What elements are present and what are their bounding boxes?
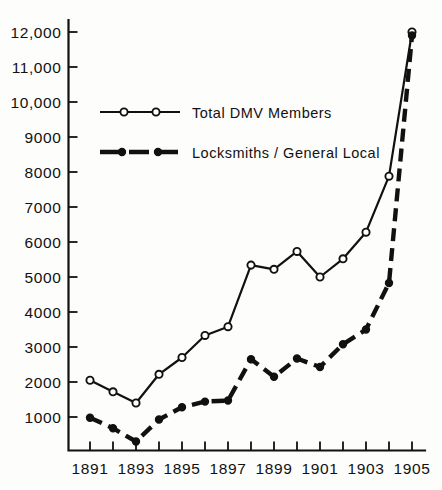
- y-tick-label: 5000: [25, 269, 62, 286]
- data-point-filled-circle: [248, 356, 255, 363]
- legend-marker-open-circle: [152, 108, 159, 115]
- data-point-filled-circle: [340, 341, 347, 348]
- y-tick-label: 1000: [25, 409, 62, 426]
- data-point-filled-circle: [133, 438, 140, 445]
- y-tick-label: 10,000: [10, 94, 61, 111]
- data-point-filled-circle: [202, 398, 209, 405]
- data-point-filled-circle: [156, 416, 163, 423]
- series-locksmiths-general-local: [87, 32, 416, 445]
- data-point-open-circle: [247, 262, 254, 269]
- data-point-filled-circle: [87, 414, 94, 421]
- y-tick-label: 3000: [25, 339, 62, 356]
- y-tick-label: 8000: [25, 164, 62, 181]
- data-point-open-circle: [201, 332, 208, 339]
- data-point-filled-circle: [294, 355, 301, 362]
- legend-label-locksmiths-general-local: Locksmiths / General Local: [192, 145, 380, 161]
- chart-container: 10002000300040005000600070008000900010,0…: [0, 0, 442, 490]
- x-tick-label: 1895: [164, 460, 201, 477]
- y-axis-tick-labels: 10002000300040005000600070008000900010,0…: [10, 24, 61, 426]
- data-point-open-circle: [339, 255, 346, 262]
- y-axis-ticks: [69, 32, 78, 417]
- y-tick-label: 6000: [25, 234, 62, 251]
- data-point-filled-circle: [110, 425, 117, 432]
- y-tick-label: 9000: [25, 129, 62, 146]
- data-point-filled-circle: [179, 404, 186, 411]
- data-point-open-circle: [86, 377, 93, 384]
- line-chart-svg: 10002000300040005000600070008000900010,0…: [0, 0, 442, 490]
- series-solid-line: [90, 32, 412, 403]
- chart-series-group: [86, 28, 415, 445]
- x-tick-label: 1897: [210, 460, 247, 477]
- data-point-filled-circle: [386, 280, 393, 287]
- x-tick-label: 1891: [72, 460, 109, 477]
- chart-axes: [69, 20, 426, 451]
- legend-entry-total-dmv-members: Total DMV Members: [100, 105, 332, 121]
- data-point-open-circle: [362, 229, 369, 236]
- data-point-filled-circle: [409, 32, 416, 39]
- data-point-filled-circle: [317, 364, 324, 371]
- data-point-open-circle: [385, 173, 392, 180]
- data-point-open-circle: [178, 354, 185, 361]
- data-point-open-circle: [155, 371, 162, 378]
- data-point-open-circle: [270, 266, 277, 273]
- data-point-open-circle: [316, 273, 323, 280]
- legend-marker-open-circle: [120, 108, 127, 115]
- x-tick-label: 1903: [348, 460, 385, 477]
- x-axis-tick-labels: 18911893189518971899190119031905: [72, 460, 431, 477]
- chart-legend: Total DMV Members Locksmiths / General L…: [100, 105, 380, 161]
- y-tick-label: 11,000: [12, 59, 62, 76]
- axis-lines: [69, 20, 426, 451]
- data-point-open-circle: [132, 399, 139, 406]
- y-tick-label: 7000: [25, 199, 62, 216]
- y-tick-label: 12,000: [10, 24, 61, 41]
- data-point-filled-circle: [363, 326, 370, 333]
- series-total-dmv-members: [86, 28, 415, 406]
- data-point-open-circle: [224, 323, 231, 330]
- legend-entry-locksmiths-general-local: Locksmiths / General Local: [100, 145, 380, 161]
- data-point-open-circle: [293, 248, 300, 255]
- x-tick-label: 1893: [118, 460, 155, 477]
- series-dashed-line: [90, 36, 412, 442]
- y-tick-label: 4000: [25, 304, 62, 321]
- data-point-open-circle: [109, 388, 116, 395]
- x-tick-label: 1901: [302, 460, 339, 477]
- legend-marker-filled-circle: [155, 149, 162, 156]
- data-point-filled-circle: [225, 397, 232, 404]
- y-tick-label: 2000: [25, 374, 62, 391]
- x-tick-label: 1905: [394, 460, 431, 477]
- data-point-filled-circle: [271, 373, 278, 380]
- legend-marker-filled-circle: [119, 149, 126, 156]
- x-tick-label: 1899: [256, 460, 293, 477]
- legend-label-total-dmv-members: Total DMV Members: [192, 105, 332, 121]
